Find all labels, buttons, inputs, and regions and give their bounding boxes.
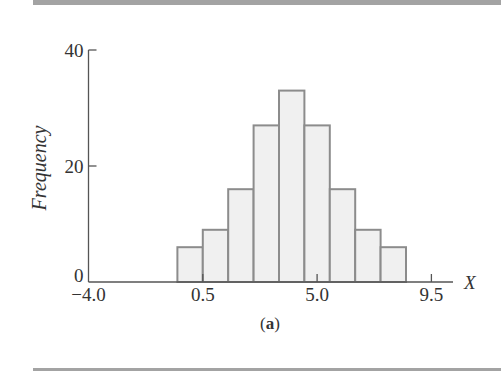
histogram-bar xyxy=(254,125,279,282)
x-tick-label: 9.5 xyxy=(420,284,444,305)
histogram-bar xyxy=(381,247,406,282)
histogram-bar xyxy=(203,230,228,282)
figure-caption: (a) xyxy=(0,314,501,334)
histogram-bar xyxy=(177,247,202,282)
y-tick-label: 40 xyxy=(65,40,84,61)
y-tick-label: 20 xyxy=(65,156,84,177)
y-axis-label: Frequency xyxy=(28,125,51,211)
x-tick-label: 5.0 xyxy=(305,284,329,305)
histogram-bar xyxy=(279,91,304,282)
caption-label: a xyxy=(266,314,275,333)
x-tick-label: 0.5 xyxy=(191,284,215,305)
histogram-bar xyxy=(228,189,253,282)
y-ticks: 02040 xyxy=(65,40,97,286)
histogram-bar xyxy=(330,189,355,282)
y-tick-label: 0 xyxy=(74,265,84,286)
histogram-bars xyxy=(177,91,406,282)
x-axis-label: X xyxy=(463,272,477,293)
x-tick-label: −4.0 xyxy=(71,284,105,305)
histogram-bar xyxy=(304,125,329,282)
histogram-bar xyxy=(355,230,380,282)
